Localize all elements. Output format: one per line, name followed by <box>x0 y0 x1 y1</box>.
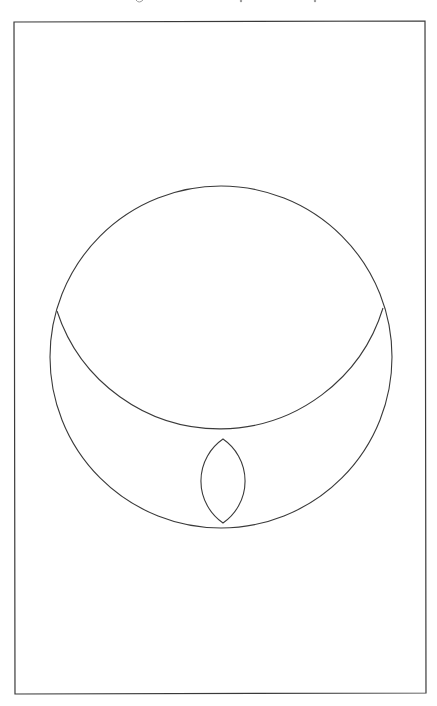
frame-rectangle <box>14 21 426 694</box>
cropped-title-fragments <box>136 0 316 2</box>
lens-shape <box>201 439 245 523</box>
inner-crescent-arc <box>57 308 383 429</box>
diagram-canvas <box>0 0 437 706</box>
outer-circle <box>50 186 392 528</box>
